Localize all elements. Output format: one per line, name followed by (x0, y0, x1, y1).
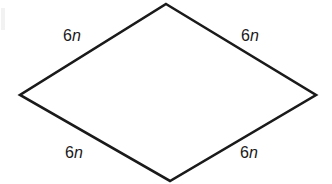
side-label-top-left: 6n (63, 28, 81, 44)
side-label-top-left-coefficient: 6 (63, 27, 72, 44)
side-label-top-left-variable: n (72, 27, 81, 44)
side-label-top-right-coefficient: 6 (241, 27, 250, 44)
rhombus-shape (0, 0, 332, 184)
side-label-top-right-variable: n (250, 27, 259, 44)
side-label-bottom-left-variable: n (74, 144, 83, 161)
side-label-bottom-right: 6n (240, 145, 258, 161)
side-label-bottom-right-variable: n (249, 144, 258, 161)
rhombus-figure: 6n 6n 6n 6n (0, 0, 332, 184)
side-label-bottom-left: 6n (65, 145, 83, 161)
side-label-bottom-right-coefficient: 6 (240, 144, 249, 161)
side-label-top-right: 6n (241, 28, 259, 44)
side-label-bottom-left-coefficient: 6 (65, 144, 74, 161)
